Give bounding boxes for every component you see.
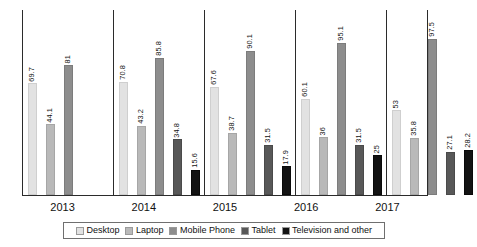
bar-mobile-phone-2013: 81 [62, 10, 75, 195]
bar-mobile-phone-2014: 85.8 [153, 10, 166, 195]
legend-item-television-and-other[interactable]: Television and other [282, 225, 373, 236]
bar-value-label: 15.6 [191, 153, 198, 168]
x-axis-tick-labels: 20132014201520162017 [22, 198, 428, 216]
bar-value-label: 60.1 [301, 82, 308, 97]
bar-value-label: 35.8 [410, 121, 417, 136]
plot-area: 69.744.18170.843.285.834.815.667.638.790… [22, 10, 428, 196]
bar-rect [319, 137, 328, 195]
bar-tablet-2015: 31.5 [262, 10, 275, 195]
bar-value-label: 31.5 [264, 128, 271, 143]
bar-value-label: 36 [319, 127, 326, 135]
bar-value-label: 67.6 [210, 70, 217, 85]
legend-label: Desktop [86, 225, 119, 236]
bar-laptop-2016: 36 [317, 10, 330, 195]
bar-value-label: 38.7 [228, 116, 235, 131]
bar-value-label: 69.7 [28, 67, 35, 82]
bar-laptop-2013: 44.1 [44, 10, 57, 195]
bar-television-and-other-2015: 17.9 [280, 10, 293, 195]
bar-value-label: 70.8 [119, 65, 126, 80]
chart-legend: DesktopLaptopMobile PhoneTabletTelevisio… [63, 222, 385, 239]
bar-rect [28, 83, 37, 195]
legend-item-laptop[interactable]: Laptop [125, 225, 163, 236]
bar-value-label: 53 [392, 100, 399, 108]
legend-item-mobile-phone[interactable]: Mobile Phone [169, 225, 235, 236]
bar-laptop-2015: 38.7 [226, 10, 239, 195]
bar-value-label: 95.1 [337, 26, 344, 41]
bar-value-label: 31.5 [355, 128, 362, 143]
legend-swatch-icon [282, 227, 290, 235]
bar-rect [155, 58, 164, 195]
bar-television-and-other-2014: 15.6 [189, 10, 202, 195]
bar-laptop-2017: 35.8 [408, 10, 421, 195]
bar-value-label: 97.5 [428, 22, 435, 37]
bar-desktop-2014: 70.8 [117, 10, 130, 195]
legend-label: Television and other [292, 225, 372, 236]
legend-swatch-icon [76, 227, 84, 235]
bar-rect [210, 87, 219, 195]
bar-rect [373, 155, 382, 195]
year-group-2015: 67.638.790.131.517.9 [205, 10, 296, 195]
legend-label: Tablet [252, 225, 276, 236]
bar-value-label: 25 [373, 145, 380, 153]
bar-rect [464, 150, 473, 195]
year-group-2014: 70.843.285.834.815.6 [114, 10, 205, 195]
bar-television-and-other-2016: 25 [371, 10, 384, 195]
bar-tablet-2014: 34.8 [171, 10, 184, 195]
legend-item-desktop[interactable]: Desktop [76, 225, 120, 236]
bar-desktop-2016: 60.1 [299, 10, 312, 195]
bar-rect [173, 139, 182, 195]
bar-rect [191, 170, 200, 195]
bar-television-and-other-2017: 28.2 [462, 10, 475, 195]
bar-mobile-phone-2017: 97.5 [426, 10, 439, 195]
bar-rect [410, 138, 419, 195]
legend-swatch-icon [169, 227, 177, 235]
bar-rect [282, 166, 291, 195]
bar-value-label: 28.2 [464, 133, 471, 148]
bar-rect [392, 110, 401, 195]
legend-label: Laptop [136, 225, 164, 236]
bar-rect [46, 124, 55, 195]
bar-tablet-2016: 31.5 [353, 10, 366, 195]
bar-value-label: 43.2 [137, 109, 144, 124]
x-tick-2017: 2017 [347, 198, 428, 216]
bar-laptop-2014: 43.2 [135, 10, 148, 195]
bar-rect [228, 133, 237, 195]
bar-value-label: 27.1 [446, 135, 453, 150]
bar-value-label: 34.8 [173, 123, 180, 138]
bar-value-label: 44.1 [46, 108, 53, 123]
legend-label: Mobile Phone [180, 225, 235, 236]
bar-value-label: 90.1 [246, 34, 253, 49]
year-group-2017: 5335.897.527.128.2 [387, 10, 477, 195]
x-tick-2015: 2015 [184, 198, 265, 216]
x-tick-2016: 2016 [266, 198, 347, 216]
bar-rect [355, 145, 364, 195]
bar-tablet-2017: 27.1 [444, 10, 457, 195]
bar-desktop-2013: 69.7 [26, 10, 39, 195]
bar-rect [337, 43, 346, 195]
bar-rect [264, 145, 273, 195]
bar-rect [137, 126, 146, 195]
bar-rect [119, 82, 128, 195]
legend-item-tablet[interactable]: Tablet [241, 225, 276, 236]
legend-swatch-icon [241, 227, 249, 235]
bar-rect [64, 65, 73, 195]
legend-swatch-icon [125, 227, 133, 235]
bar-rect [301, 99, 310, 195]
year-group-2013: 69.744.181 [23, 10, 114, 195]
year-group-2016: 60.13695.131.525 [296, 10, 387, 195]
bar-rect [446, 152, 455, 195]
bar-value-label: 85.8 [155, 41, 162, 56]
bar-value-label: 81 [64, 55, 71, 63]
bar-desktop-2017: 53 [390, 10, 403, 195]
bar-mobile-phone-2016: 95.1 [335, 10, 348, 195]
bar-desktop-2015: 67.6 [208, 10, 221, 195]
x-tick-2013: 2013 [22, 198, 103, 216]
bar-rect [246, 51, 255, 195]
x-tick-2014: 2014 [103, 198, 184, 216]
bar-value-label: 17.9 [282, 150, 289, 165]
bar-rect [428, 39, 437, 195]
bar-mobile-phone-2015: 90.1 [244, 10, 257, 195]
